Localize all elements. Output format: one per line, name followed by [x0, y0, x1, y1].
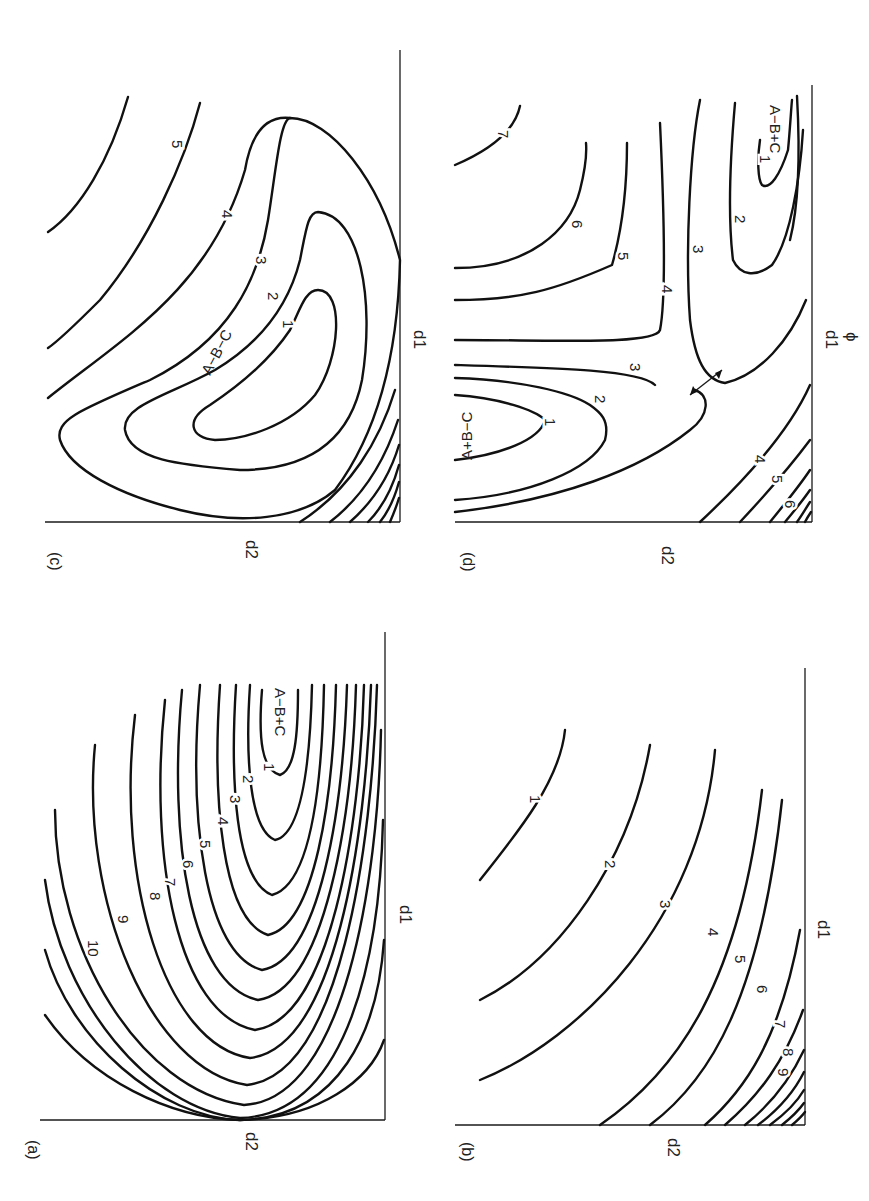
panel-d-axis-label-phi: ϕ	[842, 332, 861, 342]
panel-a: 1 2 3 4 5 6 7 8 9 10 A−B+C d1 d2 (a)	[25, 632, 415, 1160]
panel-d-axis-label-d1: d1	[822, 330, 841, 349]
panel-b-contour-5	[650, 800, 782, 1125]
panel-b-tag: (b)	[459, 1142, 476, 1162]
panel-d: 7 6 5 4 3 2 1 A−B+C 3 2 1 A+B−C 4 5 6 d1…	[455, 85, 861, 572]
panel-c-minimum-label: A−B−C	[198, 327, 236, 378]
panel-c-label-1: 1	[280, 320, 297, 328]
panel-d-label-7: 7	[495, 130, 512, 138]
panel-b-label-9: 9	[775, 1068, 792, 1076]
panel-c-contour-steep	[300, 390, 395, 522]
panel-a-label-8: 8	[147, 892, 164, 900]
panel-a-label-2: 2	[240, 775, 257, 783]
panel-d-contour-5	[455, 143, 627, 300]
panel-c-axis-label-d1: d1	[410, 330, 429, 349]
panel-d-label-2: 2	[732, 215, 749, 223]
panel-a-label-1: 1	[261, 763, 278, 771]
panel-a-contour-13	[45, 1015, 384, 1120]
panel-b-label-6: 6	[754, 985, 771, 993]
panel-d-label-2b: 2	[592, 395, 609, 403]
panel-a-minimum-label: A−B+C	[272, 688, 289, 737]
panel-c-label-4: 4	[219, 210, 236, 218]
panel-d-label-1: 1	[757, 155, 774, 163]
panel-c-label-2: 2	[265, 292, 282, 300]
panel-b-label-4: 4	[705, 928, 722, 936]
panel-a-label-9: 9	[115, 915, 132, 923]
panel-d-arrowhead-icon	[715, 370, 722, 379]
panel-c-label-5: 5	[169, 140, 186, 148]
panel-d-label-6b: 6	[782, 500, 799, 508]
panel-b-label-5: 5	[732, 955, 749, 963]
panel-b-label-8: 8	[780, 1048, 797, 1056]
panel-a-axis-label-d1: d1	[396, 905, 415, 924]
panel-d-label-4: 4	[659, 285, 676, 293]
panel-d-label-1b: 1	[542, 418, 559, 426]
panel-a-label-4: 4	[215, 817, 232, 825]
panel-b-label-2: 2	[602, 860, 619, 868]
panel-b: 1 2 3 4 5 6 7 8 9 d1 d2 (b)	[455, 668, 833, 1162]
panel-a-label-6: 6	[180, 860, 197, 868]
panel-d-axis-label-d2: d2	[658, 546, 677, 565]
panel-d-label-4b: 4	[752, 455, 769, 463]
panel-d-label-5b: 5	[769, 475, 786, 483]
panel-c-contour-6	[48, 97, 128, 232]
panel-c-contour-3	[59, 118, 400, 518]
panel-d-minimum-label-2: A+B−C	[458, 411, 475, 460]
panel-d-contour-steep	[805, 512, 811, 522]
panel-d-minimum-label-1: A−B+C	[767, 105, 784, 154]
panel-a-axis-label-d2: d2	[242, 1132, 261, 1151]
panel-a-label-10: 10	[85, 940, 102, 957]
panel-d-label-5: 5	[615, 252, 632, 260]
panel-d-contour-4	[455, 123, 664, 341]
panel-d-label-3b: 3	[627, 363, 644, 371]
panel-a-tag: (a)	[25, 1140, 42, 1160]
panel-b-contour-3	[480, 750, 715, 1080]
figure-canvas: 5 4 3 2 1 A−B−C d1 d2 (c)	[0, 0, 869, 1201]
panel-d-contour-6	[455, 143, 586, 268]
panel-a-label-3: 3	[227, 795, 244, 803]
panel-c-contour-2	[125, 212, 367, 470]
panel-d-arrowhead-icon	[690, 386, 697, 395]
panel-a-label-7: 7	[162, 878, 179, 886]
panel-b-contour-2	[480, 745, 650, 1000]
panel-b-label-7: 7	[772, 1020, 789, 1028]
panel-d-tag: (d)	[460, 552, 477, 572]
panel-b-axis-label-d2: d2	[664, 1138, 683, 1157]
panel-c: 5 4 3 2 1 A−B−C d1 d2 (c)	[45, 50, 429, 571]
panel-c-tag: (c)	[47, 552, 64, 571]
panel-d-contour-2-right	[730, 103, 803, 273]
panel-d-contour-3-upper	[455, 365, 655, 385]
panel-b-contour-1	[480, 730, 565, 880]
panel-b-axis-label-d1: d1	[814, 920, 833, 939]
panel-a-label-5: 5	[197, 840, 214, 848]
panel-d-contour-3-lower	[455, 390, 706, 512]
panel-c-label-3: 3	[253, 256, 270, 264]
panel-d-label-6: 6	[569, 220, 586, 228]
panel-b-label-1: 1	[527, 795, 544, 803]
panel-c-axis-label-d2: d2	[242, 540, 261, 559]
panel-b-label-3: 3	[657, 900, 674, 908]
panel-d-label-3: 3	[690, 245, 707, 253]
